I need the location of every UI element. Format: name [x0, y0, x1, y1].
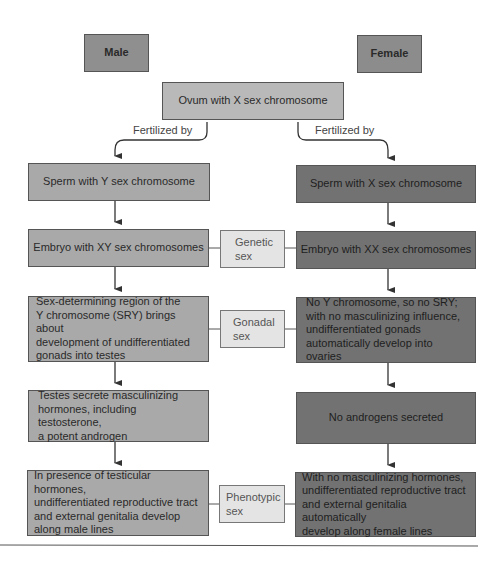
male-sperm-box: Sperm with Y sex chromosome [28, 163, 210, 201]
phenotypic-sex-label: Phenotypic sex [219, 485, 285, 523]
gonadal-sex-label: Gonadal sex [220, 310, 285, 348]
female-sperm-box: Sperm with X sex chromosome [296, 165, 476, 203]
female-header: Female [357, 35, 422, 73]
bottom-divider [0, 545, 478, 546]
male-gonad-box: Sex-determining region of the Y chromoso… [28, 296, 209, 362]
male-hormones-box: Testes secrete masculinizing hormones, i… [28, 390, 209, 442]
female-hormones-box: No androgens secreted [296, 392, 476, 444]
female-embryo-box: Embryo with XX sex chromosomes [296, 231, 476, 269]
fertilized-by-right-label: Fertilized by [315, 124, 374, 136]
male-phenotype-box: In presence of testicular hormones, undi… [27, 470, 209, 536]
ovum-box: Ovum with X sex chromosome [162, 82, 344, 120]
female-gonad-box: No Y chromosome, so no SRY; with no masc… [296, 297, 476, 363]
male-embryo-box: Embryo with XY sex chromosomes [28, 229, 209, 267]
male-header: Male [84, 34, 149, 72]
fertilized-by-left-label: Fertilized by [133, 124, 192, 136]
genetic-sex-label: Genetic sex [220, 230, 285, 268]
female-phenotype-box: With no masculinizing hormones, undiffer… [295, 472, 476, 537]
